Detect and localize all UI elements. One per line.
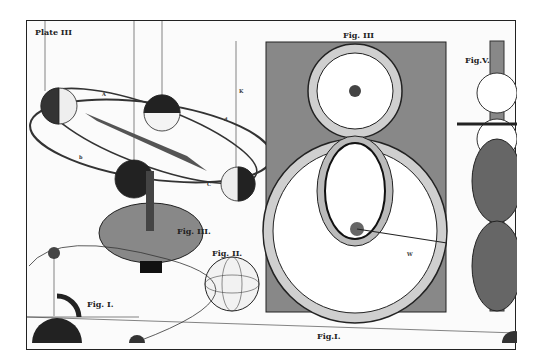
- plate-title: Plate III: [35, 27, 72, 37]
- orbit-label-b: b: [79, 154, 83, 160]
- orbit-label-K: K: [239, 88, 243, 94]
- pointer-label-W: W: [407, 251, 413, 257]
- fig1-bottom-label: Fig.I.: [317, 331, 341, 341]
- fig4-label: Fig. III: [343, 30, 374, 40]
- orbit-label-C: C: [207, 181, 211, 187]
- fig3-label: Fig. III.: [177, 226, 211, 236]
- engraved-plate: Plate III Fig. III. Fig. II. Fig. I. Fig…: [26, 20, 516, 350]
- orbit-label-d: d: [224, 116, 228, 122]
- fig5-label: Fig.V.: [465, 55, 490, 65]
- orbit-label-A: A: [102, 91, 106, 97]
- fig2-label: Fig. II.: [212, 248, 242, 258]
- fig1-label: Fig. I.: [87, 299, 113, 309]
